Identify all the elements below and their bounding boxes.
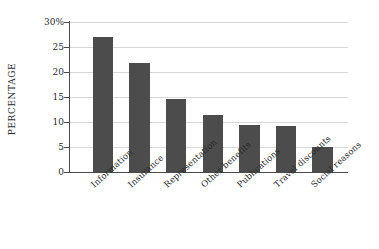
- x-axis-tick-labels: InformationInsuranceRepresentationOther …: [0, 0, 379, 249]
- bar-chart: PERCENTAGE 051015202530% InformationInsu…: [0, 0, 379, 249]
- x-axis-tick-label: Insurance: [126, 153, 165, 190]
